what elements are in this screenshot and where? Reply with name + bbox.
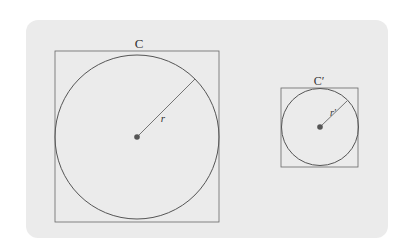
- large-radius-line: [137, 79, 195, 137]
- large-center-dot: [134, 134, 140, 140]
- large-radius-label: r: [161, 112, 166, 124]
- large-figure: C r: [55, 36, 219, 222]
- circles-diagram: C r C′ r′: [0, 0, 410, 252]
- small-figure: C′ r′: [281, 74, 359, 167]
- small-radius-label: r′: [330, 107, 337, 118]
- small-center-dot: [317, 124, 323, 130]
- small-circle-label: C′: [314, 74, 325, 88]
- large-circle-label: C: [135, 36, 144, 51]
